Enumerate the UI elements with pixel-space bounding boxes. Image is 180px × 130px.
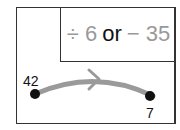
end-value: 7 xyxy=(146,105,154,121)
end-dot xyxy=(145,91,155,101)
start-value: 42 xyxy=(23,73,39,89)
start-dot xyxy=(30,89,40,99)
